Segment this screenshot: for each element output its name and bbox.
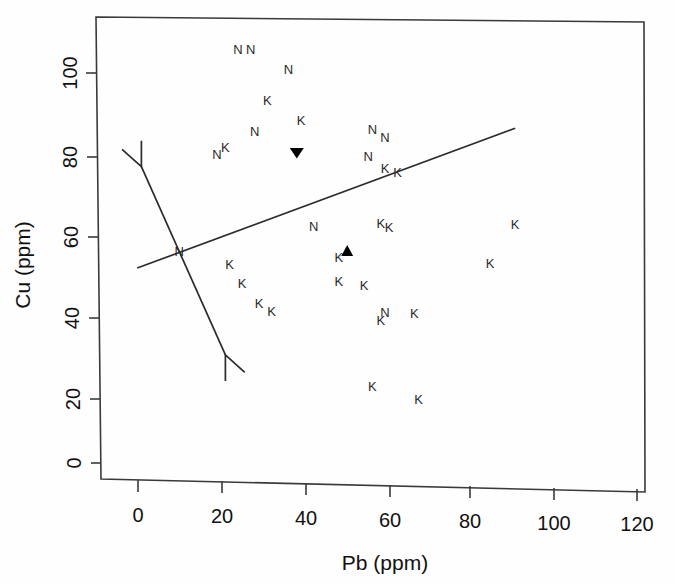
double-headed-vector: [141, 167, 225, 355]
data-point-N: N: [233, 42, 242, 57]
triangle-down-marker: [290, 148, 304, 159]
x-tick-label-60: 60: [379, 509, 401, 531]
data-point-N: N: [309, 219, 318, 234]
data-point-N: N: [368, 122, 377, 137]
chart-page: 100 80 60 40 20 0 0 20 40 60 80 100 120 …: [0, 0, 675, 584]
data-point-K: K: [225, 257, 234, 272]
double-headed-vector-head: [122, 141, 141, 167]
y-tick-label-100: 100: [59, 56, 81, 89]
x-tick-label-20: 20: [211, 505, 233, 527]
data-point-K: K: [410, 306, 419, 321]
y-tick-label-0: 0: [63, 457, 85, 468]
data-point-K: K: [297, 113, 306, 128]
x-tick-label-120: 120: [620, 513, 653, 535]
data-point-N: N: [246, 42, 255, 57]
data-point-K: K: [511, 217, 520, 232]
data-point-K: K: [360, 278, 369, 293]
y-tick-label-80: 80: [59, 146, 81, 168]
x-tick-label-100: 100: [537, 512, 570, 534]
double-headed-vector-head: [225, 355, 244, 381]
x-tick-label-40: 40: [295, 507, 317, 529]
regression-line: [137, 128, 515, 268]
data-points-layer: NNNNNNNNNNNKKKKKKKKKKKKKKKKKKKK: [175, 42, 520, 406]
data-point-K: K: [267, 304, 276, 319]
y-tick-label-40: 40: [61, 307, 83, 329]
y-axis-title: Cu (ppm): [11, 221, 34, 309]
data-point-K: K: [385, 220, 394, 235]
data-point-K: K: [263, 93, 272, 108]
data-point-N: N: [250, 124, 259, 139]
data-point-K: K: [381, 161, 390, 176]
data-point-N: N: [284, 62, 293, 77]
data-point-K: K: [221, 140, 230, 155]
data-point-K: K: [334, 250, 343, 265]
x-axis-title: Pb (ppm): [342, 551, 428, 574]
data-point-N: N: [380, 130, 389, 145]
x-tick-label-0: 0: [132, 504, 143, 526]
data-point-N: N: [364, 149, 373, 164]
x-tick-labels: 0 20 40 60 80 100 120: [132, 504, 653, 535]
data-point-K: K: [414, 392, 423, 407]
y-tick-label-20: 20: [62, 388, 84, 410]
data-point-K: K: [376, 313, 385, 328]
y-tick-label-60: 60: [60, 226, 82, 248]
data-point-K: K: [255, 296, 264, 311]
y-tick-labels: 100 80 60 40 20 0: [59, 56, 85, 468]
data-point-K: K: [334, 274, 343, 289]
x-tick-label-80: 80: [459, 510, 481, 532]
data-point-K: K: [486, 256, 495, 271]
scatter-plot: 100 80 60 40 20 0 0 20 40 60 80 100 120 …: [0, 0, 675, 584]
annotations-layer: [122, 128, 515, 381]
data-point-K: K: [238, 276, 247, 291]
data-point-K: K: [368, 379, 377, 394]
